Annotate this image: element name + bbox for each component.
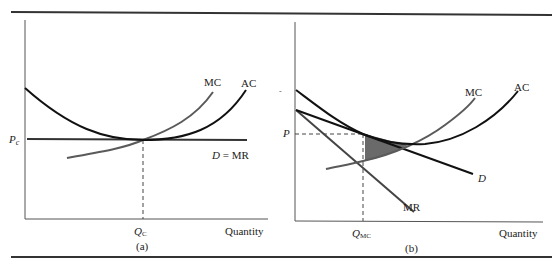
panel-a-caption: (a): [136, 240, 149, 253]
panel-b-mr-label: MR: [403, 201, 421, 213]
panel-b-d-label: D: [477, 172, 486, 184]
panel-b-x-label: Quantity: [499, 227, 538, 239]
panel-a: MC AC D = MR Pc QC Quantity (a): [8, 20, 268, 253]
panel-b-mr-line: [296, 110, 414, 212]
panel-b-ac-label: AC: [514, 81, 529, 93]
panel-b-mc-curve: [326, 98, 475, 169]
panel-a-x-label: Quantity: [225, 225, 264, 237]
panel-b: - MC AC D MR P QMC Quantity (b): [279, 22, 543, 255]
panel-a-dmr-label: D = MR: [211, 149, 249, 161]
panel-a-ac-label: AC: [241, 77, 256, 89]
monopolistic-competition-figure: MC AC D = MR Pc QC Quantity (a) - MC AC …: [0, 0, 552, 267]
panel-b-qmc-label: QMC: [352, 227, 371, 240]
panel-b-x-axis: [295, 221, 543, 222]
panel-a-mc-curve: [67, 92, 213, 158]
panel-a-pc-label: Pc: [8, 133, 20, 147]
panel-b-demand-line: [296, 110, 473, 174]
top-rule: [11, 12, 552, 15]
panel-b-p-label: P: [282, 127, 290, 139]
panel-b-caption: (b): [405, 242, 418, 255]
panel-b-stray-mark: -: [279, 87, 282, 96]
panel-a-qc-label: QC: [134, 225, 147, 238]
panel-b-mc-label: MC: [465, 86, 482, 98]
panel-b-ac-curve: [296, 90, 518, 144]
panel-a-mc-label: MC: [204, 76, 221, 88]
panel-a-ac-curve: [25, 88, 246, 140]
